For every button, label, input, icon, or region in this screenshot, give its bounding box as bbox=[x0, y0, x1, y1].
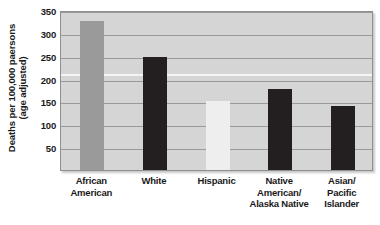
y-axis-title-text: Deaths per 100,000 paersons (age adjuste… bbox=[6, 24, 28, 152]
y-axis-tick-200: 200 bbox=[41, 74, 56, 85]
y-axis-tick-300: 300 bbox=[41, 28, 56, 39]
y-axis-tick-250: 250 bbox=[41, 51, 56, 62]
x-axis-category-labels: AfricanAmericanWhiteHispanicNativeAmeric… bbox=[60, 175, 373, 225]
x-axis-label-3-line-2: Alaska Native bbox=[248, 198, 311, 210]
x-axis-label-3: NativeAmerican/Alaska Native bbox=[248, 175, 311, 210]
x-axis-label-4-line-0: Asian/ bbox=[310, 175, 373, 187]
bar-3 bbox=[268, 89, 292, 170]
x-axis-label-4-line-2: Islander bbox=[310, 198, 373, 210]
x-axis-label-0-line-1: American bbox=[60, 187, 123, 199]
x-axis-label-4: Asian/PacificIslander bbox=[310, 175, 373, 210]
y-axis-tick-150: 150 bbox=[41, 97, 56, 108]
bar-chart-figure: Deaths per 100,000 paersons (age adjuste… bbox=[0, 0, 380, 225]
bar-series bbox=[61, 12, 372, 170]
x-axis-label-1: White bbox=[123, 175, 186, 187]
bar-0 bbox=[80, 21, 104, 170]
x-axis-label-3-line-0: Native bbox=[248, 175, 311, 187]
y-axis-title-line-1: Deaths per 100,000 paersons bbox=[6, 24, 17, 152]
x-axis-label-0: AfricanAmerican bbox=[60, 175, 123, 198]
plot-area bbox=[60, 11, 373, 171]
bar-4 bbox=[331, 106, 355, 170]
bar-2 bbox=[206, 101, 230, 170]
y-axis-tick-labels: 35030025020015010050 bbox=[30, 0, 58, 176]
y-axis-tick-100: 100 bbox=[41, 120, 56, 131]
y-axis-title: Deaths per 100,000 paersons (age adjuste… bbox=[0, 0, 34, 176]
x-axis-label-4-line-1: Pacific bbox=[310, 187, 373, 199]
x-axis-label-2-line-0: Hispanic bbox=[185, 175, 248, 187]
y-axis-tick-50: 50 bbox=[46, 143, 56, 154]
x-axis-label-0-line-0: African bbox=[60, 175, 123, 187]
x-axis-label-3-line-1: American/ bbox=[248, 187, 311, 199]
x-axis-label-1-line-0: White bbox=[123, 175, 186, 187]
x-axis-label-2: Hispanic bbox=[185, 175, 248, 187]
bar-1 bbox=[143, 57, 167, 170]
y-axis-title-line-2: (age adjusted) bbox=[17, 24, 28, 152]
y-axis-tick-350: 350 bbox=[41, 6, 56, 17]
